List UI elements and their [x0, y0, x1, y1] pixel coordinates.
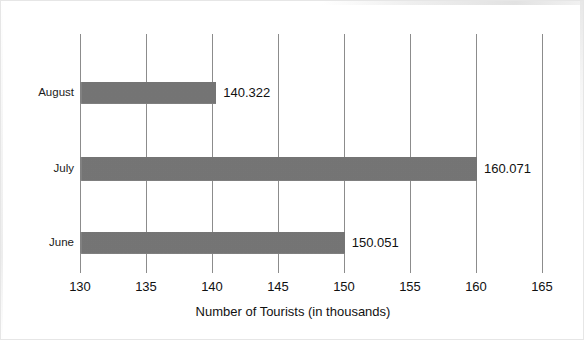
category-label-august: August [9, 86, 74, 98]
bar-chart-figure: August July June 140.322 160.071 150.051… [0, 0, 584, 340]
scan-artifact-right [580, 1, 583, 340]
plot-area [80, 34, 542, 273]
gridline-165 [542, 34, 543, 273]
value-label-june: 150.051 [352, 235, 399, 250]
value-label-august: 140.322 [223, 85, 270, 100]
scan-artifact-top [1, 1, 584, 5]
xtick-label-130: 130 [55, 279, 105, 294]
bar-june [80, 232, 345, 254]
category-label-july: July [9, 162, 74, 174]
x-axis-title: Number of Tourists (in thousands) [1, 304, 584, 319]
xtick-label-135: 135 [121, 279, 171, 294]
bar-august [80, 82, 216, 104]
xtick-label-165: 165 [517, 279, 567, 294]
xtick-label-145: 145 [253, 279, 303, 294]
xtick-label-155: 155 [385, 279, 435, 294]
gridline-160 [476, 34, 477, 273]
xtick-label-140: 140 [187, 279, 237, 294]
gridline-155 [410, 34, 411, 273]
category-label-june: June [9, 236, 74, 248]
xtick-label-160: 160 [451, 279, 501, 294]
xtick-label-150: 150 [319, 279, 369, 294]
value-label-july: 160.071 [484, 161, 531, 176]
bar-july [80, 157, 477, 181]
scan-artifact-left [1, 1, 3, 340]
